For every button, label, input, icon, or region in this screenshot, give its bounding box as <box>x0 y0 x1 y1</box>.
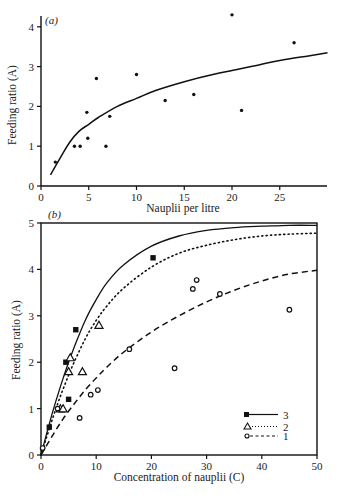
data-point-series-1 <box>287 307 292 312</box>
data-point-series-1 <box>191 287 196 292</box>
data-point-series-1 <box>40 446 45 451</box>
panel-b-data-points <box>40 255 291 450</box>
data-point-series-2 <box>66 354 74 361</box>
panel-a-label: (a) <box>45 14 58 27</box>
panel-a-y-ticks: 01234 <box>29 21 42 192</box>
x-tick-label: 10 <box>131 191 143 203</box>
data-point <box>78 145 81 148</box>
panel-b-frame <box>41 223 317 455</box>
data-point <box>86 137 89 140</box>
y-tick-label: 0 <box>29 449 35 461</box>
panel-a-fitted-curve <box>51 53 328 175</box>
figure: 01234 0510152025 (a) Nauplii per litre F… <box>0 0 351 497</box>
legend-label-1: 1 <box>283 430 289 442</box>
data-point-series-3 <box>150 255 155 260</box>
legend-item-series-1: 1 <box>245 430 289 442</box>
legend-label-3: 3 <box>283 409 289 421</box>
filled-square-marker-icon <box>244 412 249 417</box>
panel-b-legend: 3 2 1 <box>244 409 289 443</box>
y-tick-label: 3 <box>29 61 35 73</box>
panel-a-x-axis-label: Nauplii per litre <box>146 202 219 215</box>
data-point <box>230 13 233 16</box>
legend-item-series-2: 2 <box>244 421 289 433</box>
y-tick-label: 5 <box>29 217 35 229</box>
data-point <box>163 99 166 102</box>
data-point <box>104 145 107 148</box>
data-point-series-1 <box>172 366 177 371</box>
x-tick-label: 20 <box>227 191 239 203</box>
legend-item-series-3: 3 <box>244 409 289 421</box>
x-tick-label: 50 <box>312 460 324 472</box>
data-point <box>85 111 88 114</box>
data-point <box>108 115 111 118</box>
panel-b-chart: 012345 01020304050 (b) Concentration of … <box>10 208 323 484</box>
y-tick-label: 4 <box>29 21 35 33</box>
panel-a-data-points <box>54 13 296 164</box>
panel-a-y-axis-label: Feeding ratio (A) <box>6 65 19 145</box>
panel-b-y-ticks: 012345 <box>29 217 42 461</box>
data-point-series-3 <box>66 397 71 402</box>
panel-b-label: (b) <box>48 208 61 221</box>
x-tick-label: 40 <box>256 460 268 472</box>
y-tick-label: 3 <box>29 310 35 322</box>
open-triangle-marker-icon <box>244 423 251 429</box>
panel-a-x-ticks: 0510152025 <box>38 186 286 203</box>
data-point-series-2 <box>95 321 103 328</box>
data-point <box>95 77 98 80</box>
x-tick-label: 0 <box>38 460 44 472</box>
data-point <box>240 109 243 112</box>
data-point <box>135 73 138 76</box>
open-circle-marker-icon <box>245 434 249 438</box>
panel-b-curve-series-2 <box>41 233 317 455</box>
data-point-series-1 <box>77 416 82 421</box>
panel-b-curve-series-3 <box>41 225 317 455</box>
y-tick-label: 4 <box>29 263 35 275</box>
data-point-series-1 <box>194 278 199 283</box>
x-tick-label: 25 <box>274 191 286 203</box>
y-tick-label: 2 <box>29 100 35 112</box>
x-tick-label: 0 <box>38 191 44 203</box>
y-tick-label: 0 <box>29 180 35 192</box>
data-point <box>192 93 195 96</box>
data-point-series-1 <box>88 392 93 397</box>
data-point-series-3 <box>73 327 78 332</box>
x-tick-label: 10 <box>91 460 103 472</box>
panel-b-x-ticks: 01020304050 <box>38 455 323 472</box>
data-point <box>73 145 76 148</box>
data-point-series-1 <box>55 406 60 411</box>
data-point-series-2 <box>78 368 86 375</box>
y-tick-label: 1 <box>29 140 35 152</box>
panel-b-curve-series-1 <box>41 270 317 455</box>
data-point-series-1 <box>218 292 223 297</box>
panel-a-chart: 01234 0510152025 (a) Nauplii per litre F… <box>6 13 328 215</box>
panel-b-y-axis-label: Feeding ratio (A) <box>10 300 23 380</box>
data-point-series-3 <box>47 424 52 429</box>
data-point <box>54 160 57 163</box>
data-point-series-1 <box>96 388 101 393</box>
panel-b-x-axis-label: Concentration of nauplii (C) <box>114 471 245 484</box>
data-point <box>292 41 295 44</box>
y-tick-label: 1 <box>29 403 35 415</box>
y-tick-label: 2 <box>29 356 35 368</box>
x-tick-label: 5 <box>86 191 92 203</box>
data-point-series-1 <box>127 347 132 352</box>
